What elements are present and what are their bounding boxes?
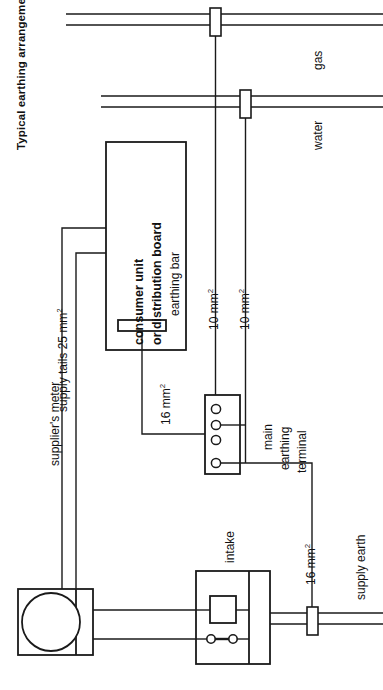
page-title: Typical earthing arrangements xyxy=(16,0,28,150)
consumer-unit-box xyxy=(106,142,186,350)
terminal-hole xyxy=(211,420,220,429)
consumer-unit-label-line1: consumer unit xyxy=(133,259,146,345)
terminal-hole xyxy=(211,404,220,413)
gas-bond-size-label: 10 mm2 xyxy=(208,289,220,330)
meter-to-intake-conductors xyxy=(93,610,196,639)
terminal-hole xyxy=(211,435,220,444)
intake-label: intake xyxy=(224,531,236,563)
consumer-unit-label-line2: or distribution board xyxy=(151,222,164,345)
main-earthing-terminal-line2: earthing xyxy=(279,427,291,470)
gas-pipe xyxy=(66,14,383,25)
main-earthing-terminal-line1: main xyxy=(262,424,274,450)
main-earthing-terminal-line3: terminal xyxy=(296,430,308,473)
water-pipe-clamp xyxy=(240,90,251,118)
main-earthing-terminal-box xyxy=(205,395,240,474)
consumer-unit-earth-size-label: 16 mm2 xyxy=(160,384,172,425)
terminal-hole xyxy=(211,458,220,467)
supply-tails xyxy=(62,228,106,628)
earthing-bar-label: earthing bar xyxy=(169,252,181,316)
gas-pipe-clamp xyxy=(210,8,221,36)
supply-earth-label: supply earth xyxy=(355,535,367,600)
meter-dial xyxy=(22,593,80,651)
water-label: water xyxy=(312,121,324,150)
supply-earth-clamp xyxy=(307,607,318,635)
water-bond-size-label: 10 mm2 xyxy=(239,289,251,330)
gas-label: gas xyxy=(312,51,324,70)
earthing-lead-size-label: 16 mm2 xyxy=(305,544,317,585)
supply-earth-cable xyxy=(270,613,383,624)
intake-fuse-symbol xyxy=(210,596,236,623)
supply-tails-label: supply tails 25 mm2 xyxy=(57,308,69,412)
earthing-diagram: Typical earthing arrangements consumer u… xyxy=(0,0,383,690)
